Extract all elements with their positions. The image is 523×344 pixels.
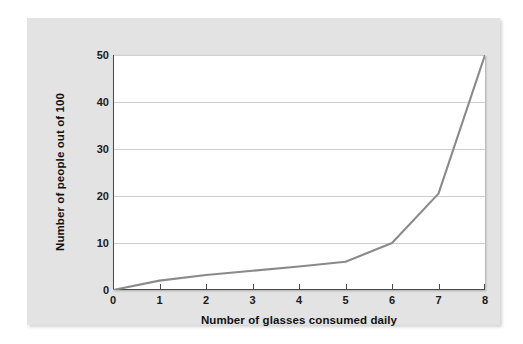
x-tick-label-8: 8 <box>475 294 495 307</box>
x-tick-label-4: 4 <box>289 294 309 307</box>
x-tick-label-6: 6 <box>382 294 402 307</box>
plot-svg <box>113 55 485 290</box>
y-tick-label-40: 40 <box>81 97 109 108</box>
y-axis-title: Number of people out of 100 <box>54 72 66 272</box>
chart-screenshot: 01020304050 012345678 Number of glasses … <box>0 0 523 344</box>
x-axis-tick-labels: 012345678 <box>113 294 485 310</box>
figure-panel: 01020304050 012345678 Number of glasses … <box>27 18 500 325</box>
x-tick-label-0: 0 <box>103 294 123 307</box>
x-tick-label-2: 2 <box>196 294 216 307</box>
axis-lines-group <box>113 55 485 290</box>
y-tick-label-50: 50 <box>81 50 109 61</box>
x-axis-title: Number of glasses consumed daily <box>113 314 485 326</box>
gridlines-group <box>113 56 485 244</box>
y-axis-tick-labels: 01020304050 <box>77 55 109 290</box>
x-tick-label-1: 1 <box>150 294 170 307</box>
y-tick-label-30: 30 <box>81 144 109 155</box>
x-tick-label-7: 7 <box>429 294 449 307</box>
y-tick-label-10: 10 <box>81 238 109 249</box>
data-series-line <box>113 55 485 290</box>
y-tick-label-20: 20 <box>81 191 109 202</box>
x-tick-label-3: 3 <box>243 294 263 307</box>
plot-area <box>113 55 485 290</box>
x-tick-label-5: 5 <box>336 294 356 307</box>
